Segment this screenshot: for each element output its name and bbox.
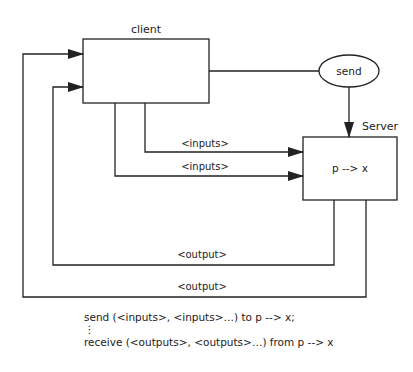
server-label: Server	[362, 120, 399, 133]
caption: send (<inputs>, <inputs>…) to p --> x; ⋮…	[84, 310, 334, 349]
caption-send-line: send (<inputs>, <inputs>…) to p --> x;	[84, 310, 334, 324]
input-label-2: <inputs>	[181, 161, 229, 172]
server-content: p --> x	[332, 162, 368, 174]
client-box	[83, 39, 209, 103]
output-label-1: <output>	[177, 249, 227, 260]
caption-receive-line: receive (<outputs>, <outputs>…) from p -…	[84, 335, 334, 349]
output-label-2: <output>	[177, 281, 227, 292]
send-label: send	[336, 65, 361, 77]
caption-ellipsis: ⋮	[84, 324, 334, 335]
client-label: client	[131, 23, 162, 36]
input-label-1: <inputs>	[181, 138, 229, 149]
